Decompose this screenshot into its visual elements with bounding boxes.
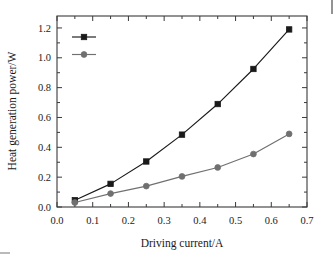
y-tick-label: 0.2 [38, 172, 51, 183]
legend-marker-circle [81, 52, 87, 58]
y-tick-label: 0.8 [38, 82, 51, 93]
x-tick-label: 0.2 [122, 215, 135, 226]
x-tick-label: 0.1 [86, 215, 99, 226]
series-marker-circle [143, 183, 149, 189]
heat-generation-power-chart: 0.00.10.20.30.40.50.60.7 0.00.20.40.60.8… [0, 0, 336, 262]
series-marker-circle [251, 151, 257, 157]
x-tick-label: 0.7 [300, 215, 313, 226]
page-edge-artifact-bottom [0, 252, 10, 254]
series-marker-square [179, 132, 184, 137]
page-edge-artifact-top [331, 0, 333, 14]
y-tick-label: 0.4 [38, 142, 52, 153]
x-tick-label: 0.3 [158, 215, 171, 226]
x-axis-tick-labels: 0.00.10.20.30.40.50.60.7 [50, 215, 313, 226]
y-tick-label: 0.0 [38, 202, 51, 213]
series-marker-square [286, 27, 291, 32]
y-tick-label: 0.6 [38, 112, 51, 123]
series-marker-square [215, 101, 220, 106]
legend-marker-square [81, 34, 86, 39]
series-marker-circle [108, 191, 114, 197]
series-marker-circle [179, 174, 185, 180]
series-marker-square [144, 159, 149, 164]
x-tick-label: 0.0 [50, 215, 63, 226]
x-axis-title: Driving current/A [141, 237, 224, 250]
y-tick-label: 1.0 [38, 52, 51, 63]
y-tick-label: 1.2 [38, 23, 51, 34]
series-marker-square [108, 181, 113, 186]
series-marker-square [251, 66, 256, 71]
y-axis-tick-labels: 0.00.20.40.60.81.01.2 [38, 23, 52, 213]
y-axis-title: Heat generation power/W [6, 51, 19, 170]
x-tick-label: 0.6 [265, 215, 278, 226]
x-tick-label: 0.5 [229, 215, 242, 226]
series-marker-circle [215, 165, 221, 171]
series-marker-circle [72, 200, 78, 206]
figure-container: 0.00.10.20.30.40.50.60.7 0.00.20.40.60.8… [0, 0, 336, 262]
series-marker-circle [286, 131, 292, 137]
x-tick-label: 0.4 [193, 215, 207, 226]
